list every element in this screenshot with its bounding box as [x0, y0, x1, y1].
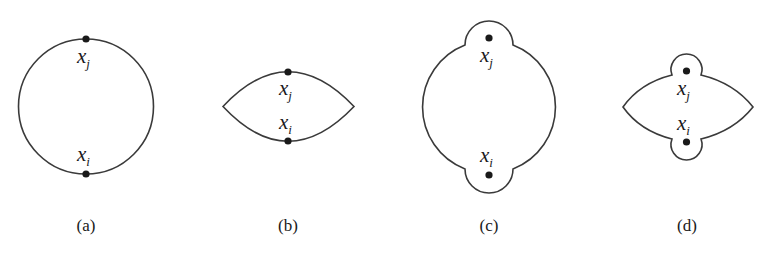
point-xi — [485, 171, 492, 178]
panel-c: xj xi (c) — [423, 21, 556, 235]
figure: xj xi (a) xj xi (b) xj xi (c) — [0, 0, 772, 257]
label-xj: xj — [76, 44, 90, 71]
point-xj — [683, 67, 690, 74]
point-xi — [683, 138, 690, 145]
panel-d: xj xi (d) — [623, 54, 753, 235]
panel-b: xj xi (b) — [223, 68, 354, 235]
label-xi: xi — [278, 110, 292, 137]
label-xj: xj — [676, 76, 690, 103]
caption-a: (a) — [77, 216, 96, 235]
label-xj: xj — [479, 43, 493, 70]
caption-d: (d) — [677, 216, 697, 235]
point-xj — [284, 68, 291, 75]
label-xi: xi — [76, 142, 90, 169]
point-xi — [284, 137, 291, 144]
panel-a: xj xi (a) — [19, 35, 154, 235]
label-xi: xi — [676, 111, 690, 138]
point-xj — [485, 34, 492, 41]
label-xj: xj — [278, 76, 292, 103]
caption-c: (c) — [480, 216, 499, 235]
caption-b: (b) — [278, 216, 298, 235]
point-xi — [82, 170, 89, 177]
label-xi: xi — [479, 143, 493, 170]
point-xj — [82, 35, 89, 42]
